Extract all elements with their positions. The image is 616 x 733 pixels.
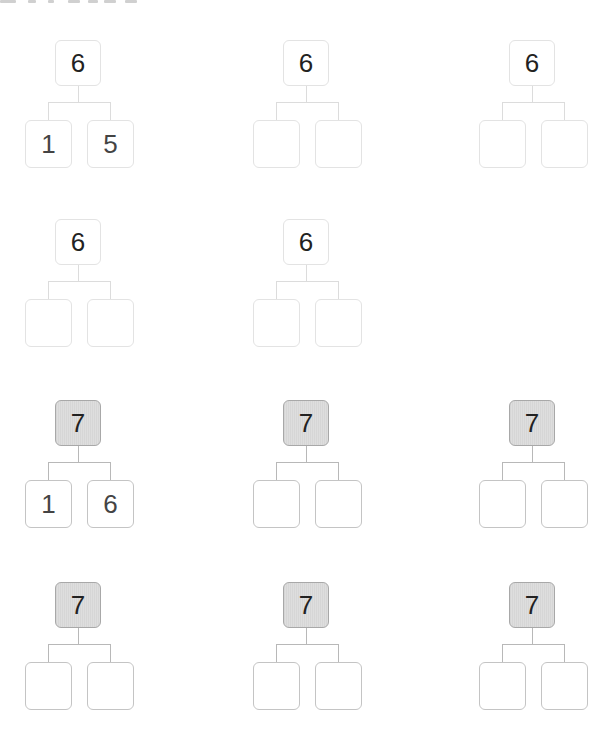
part-box-left[interactable] [479,480,526,528]
part-box-left[interactable] [253,299,300,347]
connector-line [338,644,339,662]
connector-line [48,281,110,282]
part-box-right[interactable] [87,299,134,347]
whole-box: 7 [509,400,555,446]
part-box-right[interactable]: 6 [87,480,134,528]
connector-line [276,644,277,662]
connector-line [48,102,110,103]
connector-line [502,462,503,480]
part-box-right[interactable] [315,662,362,710]
number-bond-tree: 6 [454,40,610,170]
part-box-left[interactable] [25,662,72,710]
number-bond-tree: 6 1 5 [0,40,156,170]
part-box-right[interactable] [541,120,588,168]
number-bond-tree: 6 [228,219,384,349]
whole-box: 7 [509,582,555,628]
whole-box: 7 [283,582,329,628]
cropped-text-fragment [28,0,36,3]
connector-line [532,446,533,462]
number-bond-tree: 7 [454,400,610,530]
connector-line [502,102,503,120]
part-box-left[interactable]: 1 [25,120,72,168]
whole-box: 6 [55,219,101,265]
connector-line [48,462,110,463]
connector-line [338,281,339,299]
whole-box: 7 [55,400,101,446]
part-box-left[interactable] [479,120,526,168]
connector-line [564,644,565,662]
cropped-text-fragment [88,0,98,3]
part-box-left[interactable] [253,480,300,528]
number-bond-tree: 7 [228,582,384,712]
number-bond-tree: 6 [228,40,384,170]
connector-line [306,446,307,462]
number-bond-tree: 7 [228,400,384,530]
connector-line [532,628,533,644]
part-box-right[interactable] [315,480,362,528]
part-box-right[interactable] [87,662,134,710]
connector-line [502,644,564,645]
whole-box: 6 [283,219,329,265]
cropped-text-fragment [104,0,116,3]
connector-line [110,462,111,480]
connector-line [78,446,79,462]
part-box-left[interactable] [25,299,72,347]
whole-box: 7 [55,582,101,628]
connector-line [276,281,277,299]
connector-line [48,644,49,662]
whole-box: 7 [283,400,329,446]
connector-line [532,86,533,102]
connector-line [110,102,111,120]
whole-box: 6 [283,40,329,86]
connector-line [110,281,111,299]
whole-box: 6 [509,40,555,86]
connector-line [502,462,564,463]
part-box-right[interactable]: 5 [87,120,134,168]
number-bond-tree: 6 [0,219,156,349]
cropped-text-fragment [125,0,137,3]
connector-line [502,102,564,103]
cropped-text-fragment [68,0,80,3]
connector-line [276,462,277,480]
cropped-header-strip [0,0,330,6]
connector-line [48,102,49,120]
whole-box: 6 [55,40,101,86]
part-box-left[interactable] [253,120,300,168]
connector-line [78,265,79,281]
part-box-right[interactable] [541,662,588,710]
connector-line [276,102,338,103]
number-bond-tree: 7 1 6 [0,400,156,530]
connector-line [78,86,79,102]
part-box-right[interactable] [315,120,362,168]
connector-line [564,102,565,120]
cropped-text-fragment [48,0,54,3]
connector-line [338,462,339,480]
connector-line [276,281,338,282]
connector-line [306,86,307,102]
part-box-left[interactable] [253,662,300,710]
connector-line [110,644,111,662]
part-box-left[interactable]: 1 [25,480,72,528]
number-bond-tree: 7 [0,582,156,712]
connector-line [564,462,565,480]
connector-line [502,644,503,662]
part-box-right[interactable] [315,299,362,347]
connector-line [338,102,339,120]
connector-line [48,281,49,299]
connector-line [276,644,338,645]
connector-line [306,265,307,281]
connector-line [78,628,79,644]
connector-line [48,462,49,480]
number-bond-tree: 7 [454,582,610,712]
part-box-left[interactable] [479,662,526,710]
cropped-text-fragment [0,0,16,3]
part-box-right[interactable] [541,480,588,528]
connector-line [276,102,277,120]
connector-line [48,644,110,645]
connector-line [276,462,338,463]
connector-line [306,628,307,644]
